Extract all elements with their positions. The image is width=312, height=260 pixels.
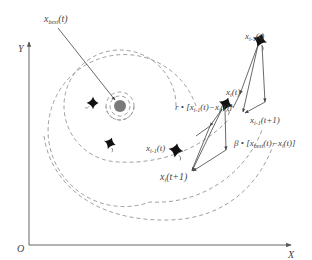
label-best-sub: best [48, 19, 58, 25]
label-prev-mid-tail: (t) [157, 143, 166, 153]
manta-mid-icon [167, 142, 185, 161]
r-term-b: (t)−x [200, 102, 219, 112]
label-prev-mid-sub: i-1 [150, 148, 157, 154]
r-term-c: (t)] [221, 102, 233, 112]
beta-term-b: (t)−x [263, 138, 282, 148]
best-pointer [58, 28, 115, 100]
diagram-canvas [0, 0, 312, 260]
label-prev-top-sub: i-1 [249, 36, 256, 42]
r-term-a: r • [x [175, 102, 194, 112]
manta-lower-icon [101, 136, 118, 153]
top-chain-vectors [233, 45, 265, 113]
beta-term-a: β • [x [234, 138, 254, 148]
beta-term-sub: best [254, 143, 264, 149]
label-r-term: r • [xi-1(t)−xi(t)] [175, 103, 233, 113]
spiral-middle [48, 55, 262, 207]
beta-term-c: (t)] [284, 138, 296, 148]
label-current-next-tail: (t+1) [166, 171, 187, 182]
current-chain-vectors [192, 109, 226, 171]
food-source [114, 100, 126, 112]
label-next-top: xi-1(t+1) [250, 116, 280, 126]
label-origin: O [17, 244, 24, 254]
cyclone-paths [44, 50, 275, 220]
label-prev-top-tail: (t) [256, 31, 265, 41]
label-best: xbest(t) [44, 14, 68, 25]
label-next-top-tail: (t+1) [261, 115, 280, 125]
label-prev-top: xi-1(t) [245, 32, 264, 42]
label-current-next: xi(t+1) [160, 172, 187, 183]
label-current-tail: (t) [232, 87, 241, 97]
manta-left-icon [85, 97, 99, 110]
label-prev-mid: xi-1(t) [146, 144, 165, 154]
label-beta-term: β • [xbest(t)−xi(t)] [234, 139, 296, 149]
label-next-top-sub: i-1 [254, 120, 261, 126]
label-x-axis: X [288, 250, 294, 260]
label-y-axis: Y [18, 44, 24, 54]
label-best-tail: (t) [58, 13, 67, 24]
label-current: xi(t) [226, 88, 240, 98]
